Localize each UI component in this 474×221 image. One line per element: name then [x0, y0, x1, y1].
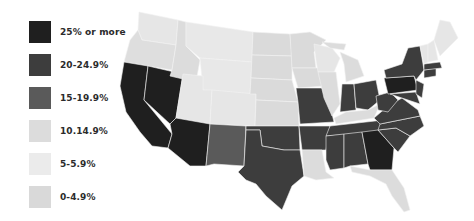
state-florida[interactable] — [350, 166, 410, 212]
state-colorado[interactable] — [210, 90, 256, 126]
state-kansas[interactable] — [255, 100, 299, 126]
state-arizona[interactable] — [168, 118, 210, 166]
legend-swatch — [29, 120, 51, 142]
state-arkansas[interactable] — [299, 126, 330, 150]
legend-label: 20-24.9% — [60, 60, 108, 70]
state-north-dakota[interactable] — [252, 32, 292, 56]
state-south-dakota[interactable] — [251, 55, 292, 80]
legend-swatch — [29, 54, 51, 76]
legend-label: 25% or more — [60, 27, 126, 37]
legend-label: 5-5.9% — [60, 159, 96, 169]
legend-swatch — [29, 186, 51, 208]
legend-label: 10.14.9% — [60, 126, 108, 136]
legend-label: 0-4.9% — [60, 192, 96, 202]
legend-swatch — [29, 153, 51, 175]
state-nebraska[interactable] — [250, 78, 298, 102]
legend-item-5-5: 5-5.9% — [29, 147, 126, 180]
state-maine[interactable] — [434, 20, 458, 56]
legend-item-15-19: 15-19.9% — [29, 81, 126, 114]
state-wyoming[interactable] — [200, 58, 252, 94]
legend-label: 15-19.9% — [60, 93, 108, 103]
legend-item-25-or-more: 25% or more — [29, 15, 126, 48]
legend: 25% or more 20-24.9% 15-19.9% 10.14.9% 5… — [29, 15, 126, 213]
state-new-mexico[interactable] — [206, 124, 246, 166]
legend-item-0-4: 0-4.9% — [29, 180, 126, 213]
state-mississippi[interactable] — [326, 134, 344, 170]
state-ohio[interactable] — [354, 80, 380, 110]
state-pennsylvania[interactable] — [384, 76, 418, 94]
state-indiana[interactable] — [340, 84, 356, 112]
legend-item-10-14: 10.14.9% — [29, 114, 126, 147]
legend-item-20-24: 20-24.9% — [29, 48, 126, 81]
state-new-york[interactable] — [384, 46, 424, 80]
legend-swatch — [29, 87, 51, 109]
legend-swatch — [29, 21, 51, 43]
state-massachusetts[interactable] — [424, 62, 442, 70]
